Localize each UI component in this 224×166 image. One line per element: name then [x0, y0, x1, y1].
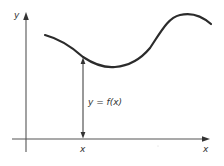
function-curve [45, 14, 211, 67]
minor-mark [158, 146, 159, 147]
x-axis-arrow-icon [202, 136, 210, 142]
function-graph [0, 0, 224, 166]
x-point-label: x [80, 145, 85, 154]
y-axis-arrow-icon [23, 12, 29, 20]
function-label: y = f(x) [88, 98, 122, 107]
arrow-down-icon [81, 132, 86, 139]
y-axis-label: y [14, 11, 19, 20]
x-axis-label: x [203, 145, 208, 154]
